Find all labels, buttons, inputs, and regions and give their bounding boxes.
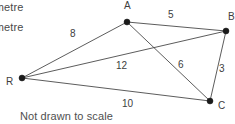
diagram-screenshot: 8 5 12 6 3 10 A B C R lometre lometre No…	[0, 0, 235, 124]
edge-label-R-C: 10	[122, 98, 134, 109]
edge-label-R-B: 12	[116, 60, 128, 71]
edge-R-C	[22, 78, 210, 101]
node-label-A: A	[124, 0, 131, 11]
axis-note-second: lometre	[0, 21, 23, 33]
edge-A-C	[127, 22, 210, 101]
edge-label-A-B: 5	[168, 9, 174, 20]
node-label-B: B	[228, 11, 235, 22]
graph-diagram: 8 5 12 6 3 10 A B C R	[0, 0, 235, 124]
edge-label-R-A: 8	[70, 28, 76, 39]
node-dot-R	[19, 75, 25, 81]
node-dot-A	[124, 19, 130, 25]
edge-label-A-C: 6	[178, 59, 184, 70]
edge-label-B-C: 3	[219, 63, 225, 74]
not-drawn-to-scale-note: Not drawn to scale	[20, 110, 113, 122]
node-dot-C	[207, 98, 213, 104]
node-label-C: C	[218, 100, 225, 111]
edge-A-B	[127, 22, 226, 31]
node-label-R: R	[6, 76, 13, 87]
node-dot-B	[223, 28, 229, 34]
axis-note-first: lometre	[0, 1, 23, 13]
